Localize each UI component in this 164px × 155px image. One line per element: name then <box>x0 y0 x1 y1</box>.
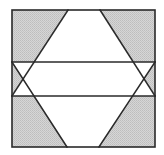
geometry-diagram <box>0 0 164 155</box>
shade-right-x <box>144 62 155 96</box>
shade-left-x <box>12 62 23 96</box>
shaded-regions <box>12 10 155 147</box>
